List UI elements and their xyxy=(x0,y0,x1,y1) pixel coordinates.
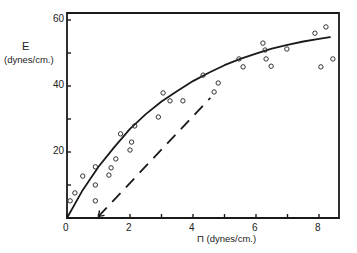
data-point xyxy=(216,81,220,85)
data-point xyxy=(129,140,133,144)
y-axis-units: (dynes/cm.) xyxy=(4,54,54,65)
data-point xyxy=(93,165,97,169)
x-axis-label: Π (dynes/cm.) xyxy=(197,233,256,244)
x-tick-label: 4 xyxy=(189,222,195,233)
plot-frame xyxy=(67,13,339,218)
data-point xyxy=(128,148,132,152)
x-tick-label: 2 xyxy=(126,222,132,233)
data-point xyxy=(181,99,185,103)
y-tick-label: 20 xyxy=(53,145,64,156)
frame-rect xyxy=(67,13,339,218)
data-point xyxy=(81,174,85,178)
x-tick-label: 8 xyxy=(315,222,321,233)
data-point xyxy=(212,90,216,94)
data-points xyxy=(68,25,335,203)
data-point xyxy=(331,57,335,61)
data-point xyxy=(107,173,111,177)
data-point xyxy=(285,47,289,51)
data-point xyxy=(264,57,268,61)
data-point xyxy=(93,199,97,203)
data-point xyxy=(156,115,160,119)
x-tick-label: 0 xyxy=(63,222,69,233)
fitted-curve-path xyxy=(67,37,330,218)
data-point xyxy=(313,31,317,35)
axis-ticks xyxy=(67,20,319,218)
data-point xyxy=(93,183,97,187)
data-point xyxy=(118,132,122,136)
data-point xyxy=(109,166,113,170)
data-point xyxy=(168,99,172,103)
data-point xyxy=(324,25,328,29)
data-point xyxy=(73,191,77,195)
data-point xyxy=(269,64,273,68)
data-point xyxy=(261,41,265,45)
y-tick-label: 60 xyxy=(53,13,64,24)
data-point xyxy=(114,157,118,161)
data-point xyxy=(241,65,245,69)
data-point xyxy=(161,91,165,95)
chart xyxy=(0,0,357,253)
data-point xyxy=(319,65,323,69)
data-point xyxy=(68,199,72,203)
y-tick-label: 40 xyxy=(53,79,64,90)
x-tick-label: 6 xyxy=(252,222,258,233)
fitted-curve xyxy=(67,37,330,218)
y-axis-symbol: E xyxy=(22,40,29,52)
